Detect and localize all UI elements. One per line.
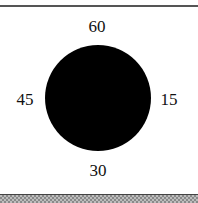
label-left: 45 <box>10 91 40 108</box>
label-bottom: 30 <box>83 162 113 179</box>
label-top: 60 <box>82 18 112 35</box>
top-rule <box>0 5 198 7</box>
bottom-dithered-band <box>0 194 198 203</box>
filled-circle <box>45 45 151 151</box>
label-right: 15 <box>154 91 184 108</box>
